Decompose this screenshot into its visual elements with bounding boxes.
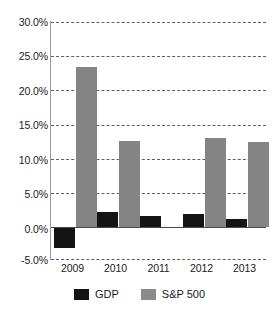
y-tick-label: 10.0% [4,155,48,166]
legend-label-gdp: GDP [95,288,119,300]
legend-item-sp500: S&P 500 [141,288,205,300]
x-tick-label-2013: 2013 [223,262,266,274]
y-tick-label: -5.0% [4,255,48,266]
legend-label-sp500: S&P 500 [162,288,205,300]
legend-item-gdp: GDP [74,288,119,300]
bar-gdp-2012 [183,214,204,227]
chart-legend: GDP S&P 500 [0,288,279,300]
y-tick-label: 0.0% [4,224,48,235]
x-tick-label-2012: 2012 [180,262,223,274]
bar-gdp-2011 [140,216,161,227]
bar-sp500-2013 [248,142,269,227]
bar-gdp-2009 [54,227,75,248]
x-tick-label-2011: 2011 [137,262,180,274]
y-tick-label: 25.0% [4,51,48,62]
legend-swatch-gdp-icon [74,289,89,300]
y-axis-tick-labels: 30.0% 25.0% 20.0% 15.0% 10.0% 5.0% 0.0% … [0,0,48,315]
gridline-zero [51,227,266,228]
y-tick-label: 15.0% [4,120,48,131]
x-tick-label-2010: 2010 [94,262,137,274]
y-tick-label: 5.0% [4,189,48,200]
bar-gdp-2010 [97,212,118,227]
x-tick-label-2009: 2009 [51,262,94,274]
y-tick-label: 30.0% [4,17,48,28]
bar-gdp-2013 [226,219,247,227]
legend-swatch-sp500-icon [141,289,156,300]
bar-chart: 30.0% 25.0% 20.0% 15.0% 10.0% 5.0% 0.0% … [0,0,279,315]
y-tick-label: 20.0% [4,86,48,97]
